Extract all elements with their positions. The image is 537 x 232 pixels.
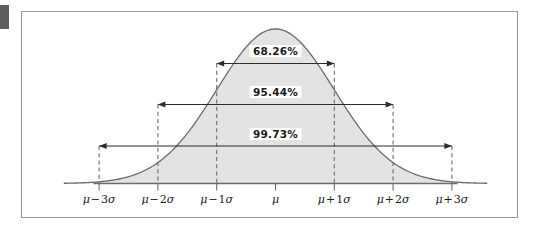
normal-distribution-figure: 68.26%95.44%99.73% μ−3σμ−2σμ−1σμμ+1σμ+2σ… [0,0,537,232]
axis-label-plus1sigma: μ+1σ [318,193,351,206]
axis-label-minus3sigma: μ−3σ [83,193,116,206]
axis-label-minus2sigma: μ−2σ [141,193,174,206]
axis-label-mu: μ [272,193,279,206]
interval-arrowhead-two-sigma-left [158,101,166,107]
interval-arrowhead-one-sigma-right [327,60,335,66]
interval-arrowhead-three-sigma-right [444,143,452,149]
interval-arrowhead-one-sigma-left [217,60,225,66]
interval-arrowhead-two-sigma-right [386,101,394,107]
percentage-label-three-sigma: 99.73% [249,128,302,140]
interval-arrowhead-three-sigma-left [99,143,107,149]
axis-label-plus3sigma: μ+3σ [435,193,468,206]
percentage-label-two-sigma: 95.44% [249,86,302,98]
axis-label-plus2sigma: μ+2σ [377,193,410,206]
percentage-label-one-sigma: 68.26% [249,45,302,57]
axis-label-minus1sigma: μ−1σ [200,193,233,206]
